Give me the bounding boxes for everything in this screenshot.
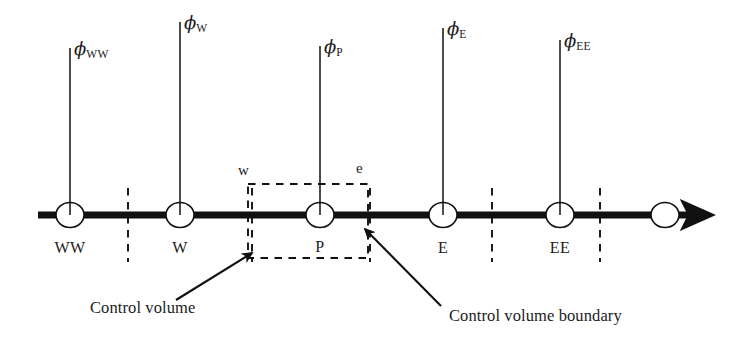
- phi-glyph: ϕ: [324, 36, 336, 57]
- phi-EE-label: ϕEE: [564, 32, 591, 53]
- face-label-w: w: [238, 163, 249, 178]
- phi-glyph: ϕ: [74, 38, 86, 59]
- node-label-EE: EE: [550, 240, 570, 256]
- phi-P-label: ϕP: [324, 38, 343, 59]
- cell-face-lines: [128, 188, 600, 262]
- phi-subscript: P: [336, 46, 343, 58]
- control-volume-boundary-caption: Control volume boundary: [449, 308, 622, 325]
- node-label-P: P: [315, 239, 324, 255]
- leader-control-volume-boundary: [365, 229, 441, 306]
- node-label-W: W: [172, 240, 188, 256]
- control-volume-caption: Control volume: [90, 300, 195, 317]
- annotation-leaders: [176, 229, 441, 306]
- phi-subscript: W: [196, 22, 207, 34]
- node-label-E: E: [438, 240, 448, 256]
- phi-glyph: ϕ: [564, 30, 576, 51]
- phi-glyph: ϕ: [447, 18, 459, 39]
- phi-subscript: WW: [86, 48, 108, 60]
- node-circle-end: [651, 203, 679, 228]
- face-label-e: e: [356, 161, 363, 176]
- phi-W-label: ϕW: [184, 14, 207, 35]
- diagram-canvas: ϕWW ϕW ϕP ϕE ϕEE WW W P E EE w e Control…: [0, 0, 731, 355]
- node-label-WW: WW: [54, 240, 85, 256]
- phi-stems: [70, 22, 560, 215]
- phi-WW-label: ϕWW: [74, 40, 109, 61]
- leader-control-volume: [176, 253, 252, 300]
- phi-subscript: E: [459, 28, 466, 40]
- phi-glyph: ϕ: [184, 12, 196, 33]
- phi-subscript: EE: [576, 40, 591, 52]
- phi-E-label: ϕE: [447, 20, 467, 41]
